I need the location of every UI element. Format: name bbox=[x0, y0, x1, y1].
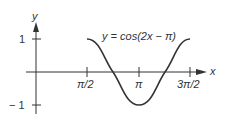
y-axis-label: y bbox=[31, 10, 39, 22]
curve-label: y = cos(2x − π) bbox=[101, 30, 176, 42]
x-axis-arrow-icon bbox=[196, 69, 207, 75]
x-tick-label-pi: π bbox=[135, 78, 143, 90]
x-tick-label-3pi-2: 3π/2 bbox=[177, 78, 200, 90]
y-tick-label-1: 1 bbox=[19, 33, 25, 45]
chart: y x 1 − 1 π/2 π 3π/2 y = cos(2x − π) bbox=[0, 0, 226, 121]
y-tick-label-neg1: − 1 bbox=[9, 99, 25, 111]
x-axis-label: x bbox=[209, 65, 216, 77]
y-axis-arrow-icon bbox=[33, 22, 39, 32]
x-tick-label-pi-2: π/2 bbox=[77, 78, 94, 90]
